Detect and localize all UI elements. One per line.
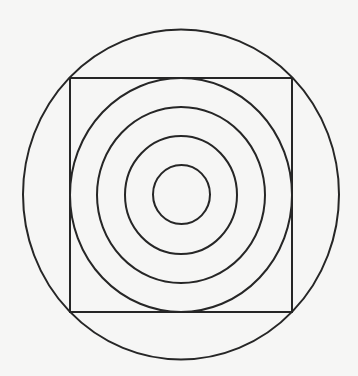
background	[0, 0, 358, 376]
concentric-circles-square-diagram	[0, 0, 358, 376]
diagram-canvas	[0, 0, 358, 376]
